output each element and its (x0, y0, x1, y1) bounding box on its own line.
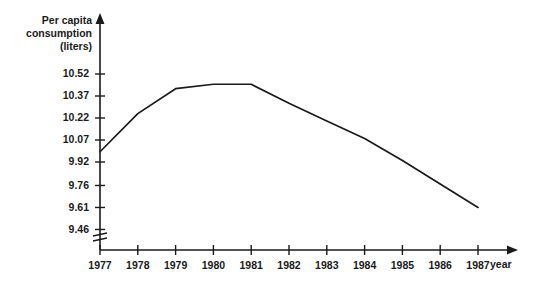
chart-container: Per capitaconsumption(liters)year 10.521… (0, 0, 533, 284)
x-tick-label: 1985 (391, 259, 415, 271)
x-tick-label: 1986 (429, 259, 453, 271)
x-tick-label: 1979 (164, 259, 188, 271)
axis-title-group: Per capitaconsumption(liters)year (26, 14, 512, 270)
y-tick-label: 9.76 (69, 179, 90, 191)
x-tick-label: 1980 (202, 259, 226, 271)
y-tick-label: 9.46 (69, 223, 90, 235)
x-axis-title: year (490, 258, 512, 270)
x-tick-label: 1982 (277, 259, 301, 271)
x-tick-label: 1981 (240, 259, 264, 271)
y-tick-label: 10.22 (63, 111, 89, 123)
y-tick-label: 10.52 (63, 67, 89, 79)
x-tick-label: 1984 (353, 259, 377, 271)
y-axis-title-line: consumption (26, 27, 92, 39)
arrow-up-icon (96, 13, 105, 24)
y-tick-label: 9.92 (69, 155, 90, 167)
x-tick-label: 1987 (466, 259, 490, 271)
line-chart: Per capitaconsumption(liters)year 10.521… (0, 0, 533, 284)
arrow-right-icon (507, 246, 518, 255)
x-tick-label: 1977 (88, 259, 112, 271)
y-tick-label: 10.37 (63, 89, 89, 101)
y-tick-label: 9.61 (69, 201, 90, 213)
y-axis-title-line: Per capita (42, 14, 92, 26)
data-series-group (100, 84, 478, 207)
y-tick-label: 10.07 (63, 133, 89, 145)
x-axis: 1977197819791980198119821983198419851986… (88, 245, 518, 271)
data-series-line (100, 84, 478, 207)
y-axis-title-line: (liters) (60, 40, 92, 52)
x-tick-label: 1983 (315, 259, 339, 271)
x-tick-label: 1978 (126, 259, 150, 271)
